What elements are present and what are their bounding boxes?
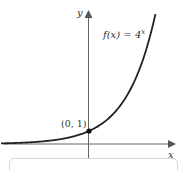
function-label: f(x) = 4x [102,28,145,40]
point-0-1 [86,128,91,133]
exponential-graph: (0, 1) y x f(x) = 4x [0,0,186,171]
y-axis-label: y [76,7,83,18]
bottom-panel [9,158,178,171]
point-label: (0, 1) [61,118,87,129]
